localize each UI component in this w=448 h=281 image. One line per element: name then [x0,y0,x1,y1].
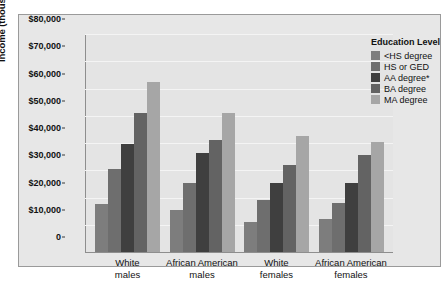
y-axis-tick-label: $80,000 [1,14,61,24]
bar [257,200,270,252]
bar [244,222,257,252]
legend-item: HS or GED [371,61,448,72]
bar [121,144,134,252]
legend-item: BA degree [371,83,448,94]
y-axis-tick-label: $60,000 [1,69,61,79]
legend-swatch-icon [371,95,380,104]
bar [108,169,121,252]
bar [209,140,222,252]
y-axis-tick-mark [62,46,65,47]
bar [332,203,345,252]
y-axis-tick-mark [62,209,65,210]
bar [371,142,384,252]
bar [296,136,309,252]
bar [283,165,296,252]
legend-title: Education Level [371,37,448,47]
y-axis-tick-mark [62,73,65,74]
bar [134,113,147,252]
legend-swatch-icon [371,62,380,71]
y-axis-tick-mark [62,100,65,101]
chart-figure: WhitemalesAfrican AmericanmalesWhitefema… [0,0,448,281]
y-axis-tick-label: $40,000 [1,123,61,133]
x-axis-group-label-line: females [301,269,401,281]
bar [183,183,196,252]
legend-item: AA degree* [371,72,448,83]
y-axis-tick-label: $10,000 [1,205,61,215]
bar [319,219,332,252]
y-axis-tick-label: $20,000 [1,178,61,188]
legend-item-label: MA degree [384,95,428,105]
legend-item-label: BA degree [384,84,426,94]
x-axis-group-label: African Americanfemales [301,257,401,280]
x-axis-labels: WhitemalesAfrican AmericanmalesWhitefema… [85,257,393,281]
legend-item: MA degree [371,94,448,105]
y-axis-tick-mark [62,19,65,20]
y-axis-tick-mark [62,128,65,129]
y-axis-tick-mark [62,155,65,156]
bar [170,210,183,252]
plot-area [85,34,393,253]
legend-swatch-icon [371,73,380,82]
bar-group [244,34,309,252]
legend-items: <HS degreeHS or GEDAA degree*BA degreeMA… [371,50,448,105]
y-axis-title: Income (thousands) [0,0,7,62]
legend-item-label: <HS degree [384,51,432,61]
x-axis-group-label-line: African American [301,257,401,269]
y-axis-tick-label: $30,000 [1,150,61,160]
bar [345,183,358,252]
y-axis-tick-labels: 0$10,000$20,000$30,000$40,000$50,000$60,… [18,14,66,267]
y-axis-tick-label: 0 [1,232,61,242]
bar [95,204,108,252]
bar [270,183,283,252]
bar [222,113,235,252]
legend-swatch-icon [371,51,380,60]
bar [358,155,371,252]
bar-group [95,34,160,252]
bar-group [170,34,235,252]
y-axis-tick-mark [62,237,65,238]
bar [196,153,209,252]
chart-frame: WhitemalesAfrican AmericanmalesWhitefema… [18,14,441,267]
bar [147,82,160,252]
y-axis-tick-mark [62,182,65,183]
x-axis-line [85,252,393,253]
legend-item: <HS degree [371,50,448,61]
chart-legend: Education Level <HS degreeHS or GEDAA de… [371,37,448,105]
legend-item-label: AA degree* [384,73,430,83]
legend-swatch-icon [371,84,380,93]
y-axis-tick-label: $70,000 [1,41,61,51]
legend-item-label: HS or GED [384,62,429,72]
y-axis-tick-label: $50,000 [1,96,61,106]
